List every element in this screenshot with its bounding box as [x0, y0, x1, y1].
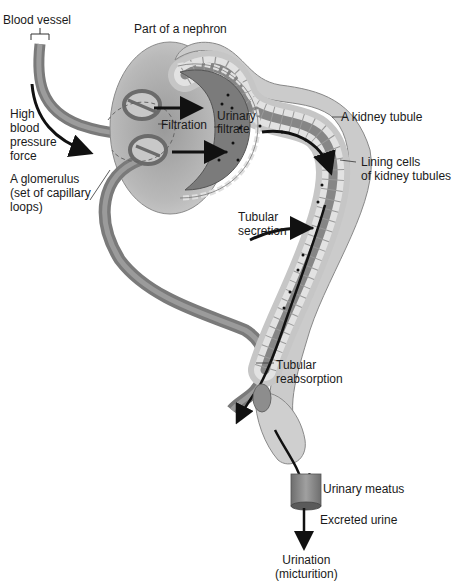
- blood-vessel-bracket: [31, 28, 49, 40]
- label-urinary-filtrate: Urinary filtrate: [217, 110, 256, 136]
- urinary-meatus: [291, 474, 321, 510]
- nephron-diagram: Blood vessel Part of a nephron High bloo…: [0, 0, 455, 583]
- label-part-of-nephron: Part of a nephron: [134, 22, 227, 36]
- label-filtration: Filtration: [161, 119, 207, 132]
- label-blood-vessel: Blood vessel: [3, 13, 71, 27]
- label-urinary-meatus: Urinary meatus: [323, 482, 404, 496]
- label-glomerulus: A glomerulus (set of capillary loops): [10, 172, 91, 214]
- label-tubular-reabsorption: Tubular reabsorption: [276, 358, 343, 386]
- label-urination: Urination (micturition): [275, 553, 338, 581]
- label-kidney-tubule: A kidney tubule: [341, 110, 422, 124]
- label-tubular-secretion: Tubular secretion: [238, 210, 287, 238]
- label-lining-cells: Lining cells of kidney tubules: [361, 155, 451, 183]
- label-excreted-urine: Excreted urine: [320, 513, 397, 527]
- label-high-blood-pressure: High blood pressure force: [10, 107, 57, 163]
